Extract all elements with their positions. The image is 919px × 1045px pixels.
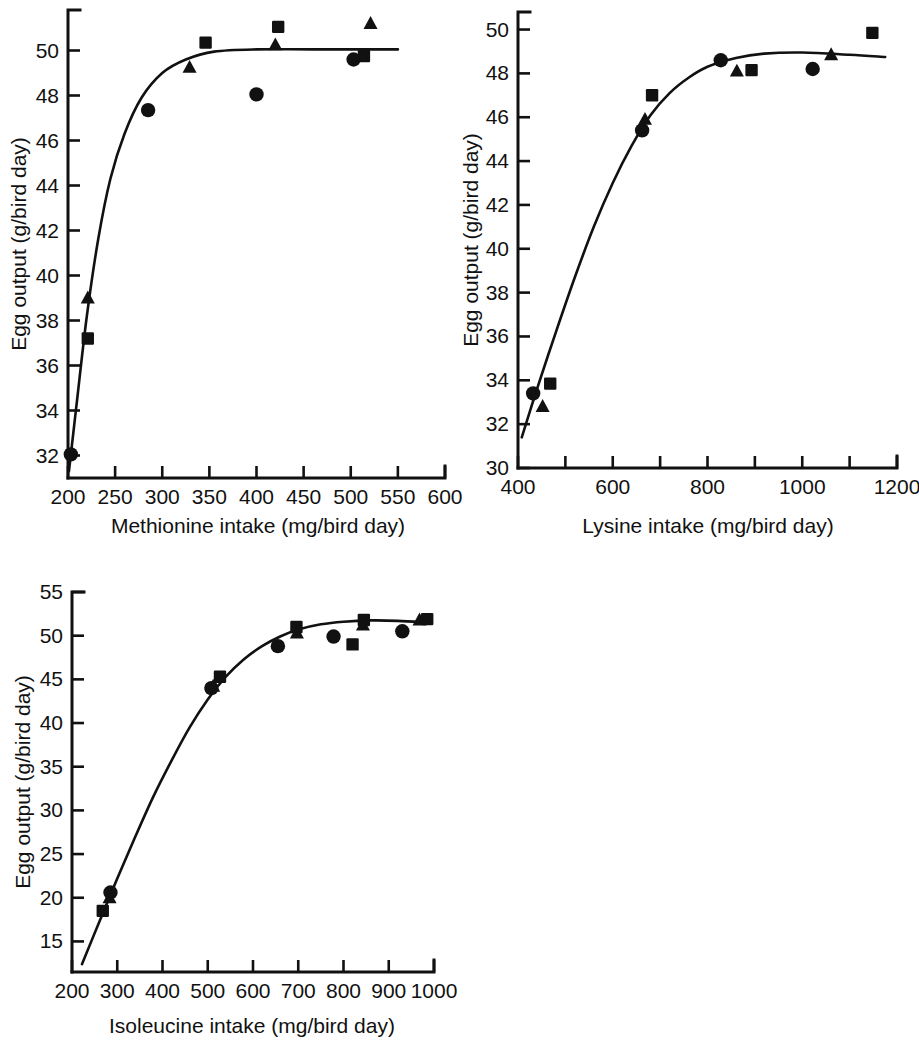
y-ticks-2	[518, 30, 530, 468]
data-point-square	[346, 638, 358, 650]
y-tick-label: 50	[36, 39, 59, 62]
data-point-triangle	[730, 64, 744, 77]
x-ticks-1	[68, 466, 445, 478]
data-point-circle	[141, 103, 155, 117]
data-point-circle	[714, 53, 728, 67]
data-point-circle	[249, 87, 263, 101]
x-ticklabels-2: 40060080010001200	[500, 475, 919, 498]
y-tick-label: 46	[486, 105, 509, 128]
y-tick-label: 32	[486, 412, 509, 435]
data-point-circle	[635, 123, 649, 137]
y-tick-label: 40	[486, 237, 509, 260]
x-tick-label: 200	[50, 485, 85, 508]
y-ticklabels-2: 3032343638404244464850	[486, 18, 510, 479]
y-tick-label: 48	[486, 61, 509, 84]
x-tick-label: 200	[54, 979, 89, 1002]
data-point-square	[214, 671, 226, 683]
x-tick-label: 300	[145, 485, 180, 508]
y-tick-label: 50	[40, 624, 63, 647]
data-point-triangle	[183, 60, 197, 73]
x-tick-label: 500	[190, 979, 225, 1002]
data-point-triangle	[268, 37, 282, 50]
y-tick-label: 44	[36, 174, 60, 197]
x-ticklabels-1: 200250300350400450500550600	[50, 485, 462, 508]
y-tick-label: 42	[486, 193, 509, 216]
chart-panel-methionine: 32343638404244464850 2002503003504004505…	[0, 0, 460, 560]
y-tick-label: 32	[36, 444, 59, 467]
y-tick-label: 38	[486, 281, 509, 304]
x-ticklabels-3: 2003004005006007008009001000	[54, 979, 457, 1002]
x-axis-title-1: Methionine intake (mg/bird day)	[111, 514, 405, 537]
y-tick-label: 35	[40, 755, 63, 778]
x-tick-label: 600	[595, 475, 630, 498]
x-axis-group-1: 200250300350400450500550600	[50, 466, 462, 508]
y-axis-group-3: 152025303540455055	[40, 580, 84, 972]
y-tick-label: 36	[36, 354, 59, 377]
x-tick-label: 900	[371, 979, 406, 1002]
x-tick-label: 400	[500, 475, 535, 498]
x-tick-label: 400	[145, 979, 180, 1002]
data-point-square	[544, 377, 556, 389]
y-tick-label: 44	[486, 149, 510, 172]
x-axis-title-2: Lysine intake (mg/bird day)	[582, 514, 833, 537]
y-tick-label: 15	[40, 929, 63, 952]
x-tick-label: 550	[380, 485, 415, 508]
y-tick-label: 50	[486, 18, 509, 41]
y-ticks-3	[72, 592, 84, 941]
x-axis-group-3: 2003004005006007008009001000	[54, 960, 457, 1002]
data-point-square	[199, 36, 211, 48]
y-tick-label: 34	[486, 368, 510, 391]
y-tick-label: 38	[36, 309, 59, 332]
y-axis-line-2	[518, 12, 530, 468]
data-markers-isoleucine	[97, 612, 434, 917]
y-axis-title-2: Egg output (g/bird day)	[459, 133, 482, 347]
fit-curve-isoleucine	[82, 620, 427, 964]
y-tick-label: 55	[40, 580, 63, 603]
isoleucine-svg: 152025303540455055 200300400500600700800…	[0, 560, 560, 1045]
x-ticks-3	[72, 960, 434, 972]
data-point-triangle	[536, 399, 550, 412]
y-tick-label: 34	[36, 399, 60, 422]
x-tick-label: 350	[192, 485, 227, 508]
data-point-triangle	[638, 112, 652, 125]
x-tick-label: 1000	[411, 979, 458, 1002]
data-point-square	[97, 905, 109, 917]
data-point-circle	[271, 639, 285, 653]
data-point-square	[745, 64, 757, 76]
x-tick-label: 250	[98, 485, 133, 508]
y-tick-label: 42	[36, 219, 59, 242]
x-tick-label: 800	[326, 979, 361, 1002]
y-axis-line-3	[72, 592, 84, 972]
x-axis-group-2: 40060080010001200	[500, 456, 919, 498]
data-point-triangle	[81, 291, 95, 304]
data-point-circle	[326, 629, 340, 643]
y-tick-label: 36	[486, 324, 509, 347]
x-tick-label: 1200	[874, 475, 919, 498]
y-tick-label: 40	[40, 711, 63, 734]
data-point-triangle	[364, 16, 378, 29]
y-tick-label: 25	[40, 842, 63, 865]
data-point-circle	[526, 386, 540, 400]
y-tick-label: 45	[40, 667, 63, 690]
x-tick-label: 500	[333, 485, 368, 508]
y-tick-label: 48	[36, 84, 59, 107]
x-axis-title-3: Isoleucine intake (mg/bird day)	[109, 1014, 395, 1037]
data-point-square	[646, 89, 658, 101]
y-tick-label: 20	[40, 886, 63, 909]
fit-curve-methionine	[69, 49, 398, 471]
data-point-circle	[805, 62, 819, 76]
data-markers-methionine	[64, 16, 378, 462]
figure-root: 32343638404244464850 2002503003504004505…	[0, 0, 919, 1045]
y-axis-group-2: 3032343638404244464850	[486, 12, 530, 479]
x-tick-label: 1000	[779, 475, 826, 498]
data-point-circle	[395, 624, 409, 638]
y-axis-title-3: Egg output (g/bird day)	[11, 675, 34, 889]
data-point-square	[358, 50, 370, 62]
y-axis-title-1: Egg output (g/bird day)	[7, 137, 30, 351]
data-point-square	[82, 332, 94, 344]
y-tick-label: 30	[40, 798, 63, 821]
data-point-circle	[64, 447, 78, 461]
chart-panel-isoleucine: 152025303540455055 200300400500600700800…	[0, 560, 560, 1045]
y-axis-group-1: 32343638404244464850	[36, 10, 80, 478]
y-ticklabels-3: 152025303540455055	[40, 580, 63, 952]
